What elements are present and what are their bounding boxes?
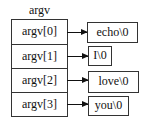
string-box-i: I\0 xyxy=(88,46,112,66)
array-cell-0: argv[0] xyxy=(12,20,67,44)
array-title: argv xyxy=(11,2,68,18)
array-cell-2: argv[2] xyxy=(12,68,67,92)
string-box-love: love\0 xyxy=(88,71,139,93)
argv-array: argv[0] argv[1] argv[2] argv[3] xyxy=(11,19,68,117)
arrow-2 xyxy=(67,80,88,81)
arrow-1 xyxy=(67,56,88,57)
arrow-0 xyxy=(67,32,87,33)
string-box-echo: echo\0 xyxy=(87,22,138,43)
string-box-you: you\0 xyxy=(88,96,129,116)
array-cell-1: argv[1] xyxy=(12,44,67,68)
array-cell-3: argv[3] xyxy=(12,92,67,116)
arrow-3 xyxy=(67,104,88,105)
